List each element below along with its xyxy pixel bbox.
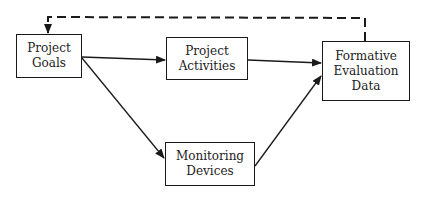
node-label-line: Project (185, 44, 228, 59)
node-label-line: Evaluation (333, 64, 398, 79)
node-label-line: Project (27, 41, 70, 56)
edge-activities-to-evaluation (248, 60, 321, 63)
node-label-line: Activities (179, 59, 236, 74)
edge-goals-to-monitoring (82, 58, 164, 158)
node-label-line: Devices (186, 164, 233, 179)
node-formative-evaluation-data: Formative Evaluation Data (322, 41, 410, 101)
edge-monitoring-to-evaluation (255, 76, 321, 166)
node-label-line: Monitoring (176, 149, 244, 164)
node-label-line: Data (352, 79, 381, 94)
flow-diagram: Project Goals Project Activities Formati… (0, 0, 422, 201)
edge-goals-to-activities (82, 57, 165, 60)
node-label-line: Formative (335, 49, 397, 64)
node-project-activities: Project Activities (166, 37, 248, 80)
node-monitoring-devices: Monitoring Devices (165, 142, 255, 186)
node-label-line: Goals (32, 56, 66, 71)
node-project-goals: Project Goals (16, 34, 82, 78)
